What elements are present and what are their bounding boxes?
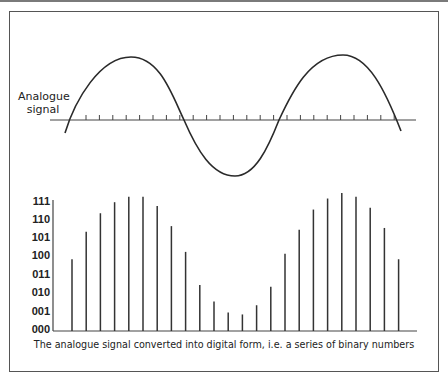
y-label-001: 001 [28,305,50,317]
axis-ticks [86,115,394,120]
y-label-011: 011 [28,268,50,280]
analogue-signal-label: Analogue signal [18,90,68,116]
y-label-100: 100 [28,249,50,261]
y-label-111: 111 [28,195,50,207]
diagram-canvas [0,0,448,385]
figure-caption: The analogue signal converted into digit… [9,339,439,350]
y-label-101: 101 [28,231,50,243]
label-line-2: signal [18,103,68,116]
sample-bars [72,193,399,331]
y-label-000: 000 [28,323,50,335]
y-label-110: 110 [28,213,50,225]
y-label-010: 010 [28,286,50,298]
label-line-1: Analogue [18,90,68,103]
